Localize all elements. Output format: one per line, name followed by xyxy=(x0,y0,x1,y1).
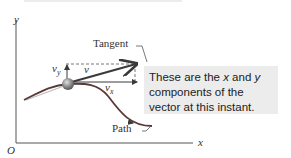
vy-label: vy xyxy=(52,63,60,77)
callout-box: These are the x and y components of the … xyxy=(144,66,278,114)
particle xyxy=(62,78,74,90)
vx-label: vx xyxy=(105,82,113,96)
x-axis-label: x xyxy=(198,137,203,148)
origin-label: O xyxy=(7,145,15,156)
path-label: Path xyxy=(112,123,132,134)
tangent-leader xyxy=(136,46,147,62)
v-arrow xyxy=(68,64,136,83)
path-curve xyxy=(24,84,152,126)
tangent-label: Tangent xyxy=(93,38,128,49)
v-label: v xyxy=(84,64,89,75)
y-axis-label: y xyxy=(14,14,19,25)
